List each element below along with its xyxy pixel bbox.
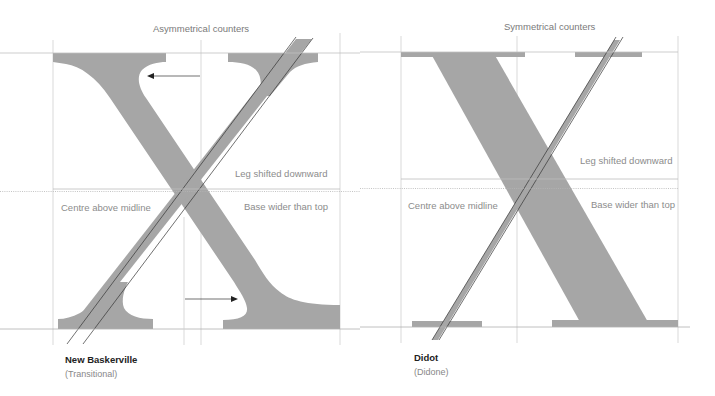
label-leg-shifted: Leg shifted downward (235, 169, 327, 179)
panel-title: Asymmetrical counters (153, 24, 249, 34)
typeface-classification: (Transitional) (65, 370, 117, 379)
diagram-canvas (0, 0, 715, 396)
typeface-name: Didot (414, 353, 438, 363)
didot-diagram (360, 36, 690, 343)
x-glyph-thick-stroke (53, 53, 340, 329)
label-leg-shifted: Leg shifted downward (580, 156, 672, 166)
baskerville-diagram (0, 33, 360, 345)
label-base-wider: Base wider than top (591, 200, 675, 210)
panel-title: Symmetrical counters (504, 22, 595, 32)
typeface-classification: (Didone) (414, 368, 449, 377)
x-glyph-thick-stroke (430, 52, 648, 322)
label-centre-above-midline: Centre above midline (61, 203, 151, 213)
arrow-right-icon (231, 296, 238, 302)
label-centre-above-midline: Centre above midline (408, 201, 498, 211)
typeface-name: New Baskerville (65, 355, 137, 365)
arrow-left-icon (147, 73, 154, 79)
label-base-wider: Base wider than top (244, 202, 328, 212)
